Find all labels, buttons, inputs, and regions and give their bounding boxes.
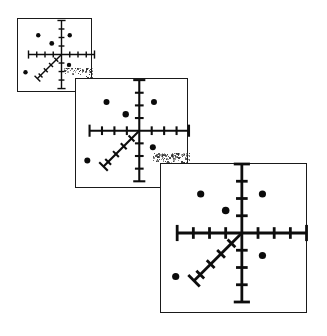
panel-1-z-axis — [35, 55, 62, 82]
figure-title: Sequence of three overlapping scatter pa… — [0, 21, 1, 22]
data-point — [222, 207, 230, 215]
panel-3-axes — [161, 164, 308, 314]
data-point — [84, 157, 90, 163]
data-point — [49, 41, 54, 46]
panel-3-z-axis — [188, 233, 242, 287]
data-point — [259, 252, 266, 259]
data-point — [68, 33, 72, 37]
panel-3-axis-group — [177, 164, 306, 302]
data-point — [123, 111, 129, 117]
data-point — [197, 190, 204, 197]
data-point — [36, 33, 40, 37]
panel-3[interactable] — [160, 163, 307, 313]
data-point — [67, 63, 71, 67]
data-point — [172, 273, 179, 280]
data-point — [23, 70, 27, 74]
data-point — [150, 144, 156, 150]
data-point — [151, 99, 157, 105]
data-point — [104, 99, 110, 105]
data-point — [259, 190, 266, 197]
figure-canvas: Sequence of three overlapping scatter pa… — [0, 0, 327, 336]
panel-2-z-axis — [99, 131, 139, 171]
panel-3-points — [172, 190, 266, 280]
